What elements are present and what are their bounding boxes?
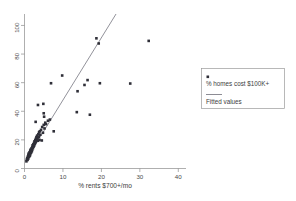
y-tick-label: 60 <box>13 81 20 88</box>
data-point <box>97 42 100 45</box>
data-point <box>76 90 79 93</box>
legend-line-label: Fitted values <box>206 98 242 105</box>
x-tick-label: 30 <box>136 173 143 180</box>
x-axis-title: % rents $700+/mo <box>78 182 132 189</box>
data-point <box>34 121 37 124</box>
plot-axes <box>25 14 187 169</box>
data-point <box>147 40 150 43</box>
data-point <box>83 84 86 87</box>
y-tick-label: 80 <box>13 52 20 59</box>
y-tick-label: 0 <box>13 168 20 172</box>
data-point <box>45 123 48 126</box>
x-tick-label: 0 <box>23 173 27 180</box>
data-point <box>61 74 64 77</box>
data-point <box>42 112 45 115</box>
data-point <box>37 104 40 107</box>
data-point <box>41 139 44 142</box>
data-point <box>76 111 79 114</box>
data-point <box>49 118 52 121</box>
x-tick-label: 10 <box>60 173 67 180</box>
data-point <box>43 127 46 130</box>
data-point <box>50 82 53 85</box>
data-point <box>89 113 92 116</box>
y-tick-label: 40 <box>13 109 20 116</box>
data-point <box>52 130 55 133</box>
legend-marker-label: % homes cost $100K+ <box>206 80 270 87</box>
x-tick-label: 20 <box>98 173 105 180</box>
data-point <box>39 133 42 136</box>
data-point <box>95 37 98 40</box>
data-point <box>40 129 43 132</box>
data-point <box>129 82 132 85</box>
x-axis-ticks: 010203040 <box>23 169 183 181</box>
data-point <box>42 103 45 106</box>
y-axis-ticks: 020406080100 <box>13 22 25 173</box>
data-point <box>38 139 41 142</box>
legend: % homes cost $100K+ Fitted values <box>202 69 285 109</box>
chart-figure: 020406080100 010203040 % rents $700+/mo … <box>0 0 296 201</box>
scatter-plot-canvas: 020406080100 010203040 % rents $700+/mo … <box>0 0 296 201</box>
x-tick-label: 40 <box>175 173 182 180</box>
data-point <box>43 115 46 118</box>
legend-marker-swatch <box>207 76 210 79</box>
y-tick-label: 100 <box>13 22 20 33</box>
y-tick-label: 20 <box>13 138 20 145</box>
data-point <box>42 131 45 134</box>
data-point <box>86 79 89 82</box>
data-point <box>99 82 102 85</box>
data-points-group <box>25 37 150 163</box>
